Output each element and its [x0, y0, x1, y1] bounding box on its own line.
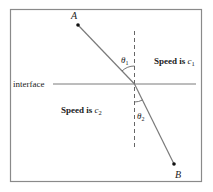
point-b-label: B [175, 169, 181, 180]
point-a-label: A [70, 10, 78, 21]
refraction-diagram: A B interface Speed is c1 Speed is c2 θ1… [0, 0, 213, 192]
point-a-dot [76, 23, 80, 27]
speed-c2-label: Speed is c2 [61, 105, 102, 116]
interface-label: interface [13, 79, 44, 89]
diagram-frame [11, 10, 202, 182]
speed-c1-label: Speed is c1 [154, 56, 195, 67]
point-b-dot [172, 162, 176, 166]
